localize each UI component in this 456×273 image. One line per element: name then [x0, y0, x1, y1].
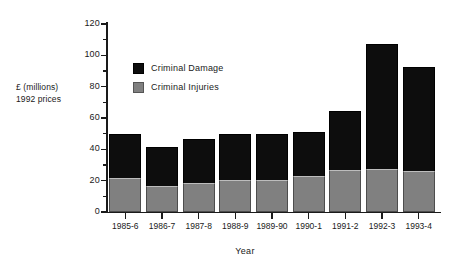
y-axis-minor-tick-mark [103, 164, 107, 165]
bar-stack [256, 24, 288, 212]
y-axis-tick-label: 80 [66, 82, 100, 91]
legend-label-criminal-injuries: Criminal Injuries [151, 83, 219, 92]
y-axis-tick-mark [101, 211, 107, 212]
x-axis-title-text: Year [201, 246, 254, 256]
legend-item-criminal-damage: Criminal Damage [133, 60, 273, 76]
bar-stack [403, 24, 435, 212]
y-axis-tick-label: 0 [66, 207, 100, 216]
bar-segment-criminal-injuries [329, 170, 361, 212]
y-axis-tick-label: 120 [66, 19, 100, 28]
legend-label-criminal-damage: Criminal Damage [151, 64, 224, 73]
y-axis-tick-mark [101, 180, 107, 181]
x-axis-tick-mark [381, 213, 382, 219]
x-axis-tick-label: 1993-4 [395, 221, 443, 231]
stacked-bar-chart: £ (millions) 1992 prices 020406080100120… [0, 0, 456, 273]
y-axis-tick-label: 20 [66, 176, 100, 185]
legend-swatch-criminal-injuries [133, 82, 144, 93]
bar-segment-criminal-injuries [403, 171, 435, 212]
x-axis-tick-mark [418, 213, 419, 219]
y-axis-minor-tick-mark [103, 133, 107, 134]
legend-swatch-criminal-damage [133, 63, 144, 74]
x-axis-tick-mark [308, 213, 309, 219]
x-axis-title: Year [0, 246, 456, 256]
y-axis-tick-labels: 020406080100120 [62, 0, 100, 273]
y-axis-minor-tick-mark [103, 70, 107, 71]
bar-stack [293, 24, 325, 212]
y-axis-minor-tick-mark [103, 39, 107, 40]
bar-stack [366, 24, 398, 212]
y-axis-tick-label: 40 [66, 144, 100, 153]
x-axis-tick-mark [235, 213, 236, 219]
bar-stack [109, 24, 141, 212]
bar-stack [146, 24, 178, 212]
y-axis-tick-mark [101, 117, 107, 118]
bar-segment-criminal-injuries [366, 169, 398, 212]
y-axis-tick-mark [101, 23, 107, 24]
bar-stack [329, 24, 361, 212]
bar-segment-criminal-injuries [109, 178, 141, 212]
chart-legend: Criminal Damage Criminal Injuries [133, 60, 273, 98]
x-axis-tick-mark [161, 213, 162, 219]
bar-stack [219, 24, 251, 212]
y-axis-minor-tick-mark [103, 102, 107, 103]
y-axis-minor-tick-mark [103, 196, 107, 197]
x-axis-tick-mark [271, 213, 272, 219]
x-axis-tick-mark [125, 213, 126, 219]
y-axis-tick-label: 100 [66, 50, 100, 59]
y-axis-tick-mark [101, 55, 107, 56]
plot-area [107, 24, 437, 212]
y-axis-tick-mark [101, 86, 107, 87]
bar-segment-criminal-injuries [183, 183, 215, 212]
y-axis-tick-mark [101, 149, 107, 150]
y-axis-tick-label: 60 [66, 113, 100, 122]
bar-segment-criminal-injuries [219, 180, 251, 212]
legend-item-criminal-injuries: Criminal Injuries [133, 79, 273, 95]
bar-stack [183, 24, 215, 212]
bar-segment-criminal-injuries [256, 180, 288, 212]
bar-segment-criminal-injuries [146, 186, 178, 212]
bar-segment-criminal-injuries [293, 176, 325, 212]
x-axis-tick-mark [345, 213, 346, 219]
x-axis-tick-mark [198, 213, 199, 219]
